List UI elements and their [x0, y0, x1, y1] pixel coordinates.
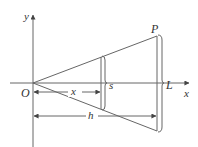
diagram-canvas: y x O P s L x h [0, 0, 198, 147]
end-length-L-label: L [165, 78, 173, 92]
point-p-label: P [150, 22, 159, 36]
distance-x-label: x [70, 85, 76, 97]
x-axis-label: x [183, 87, 189, 99]
upper-edge-line [33, 36, 157, 83]
y-axis-label: y [23, 10, 29, 22]
origin-label: O [21, 86, 30, 100]
lower-edge-line [33, 83, 157, 131]
cross-section-s-label: s [109, 79, 113, 91]
distance-h-label: h [88, 109, 94, 121]
